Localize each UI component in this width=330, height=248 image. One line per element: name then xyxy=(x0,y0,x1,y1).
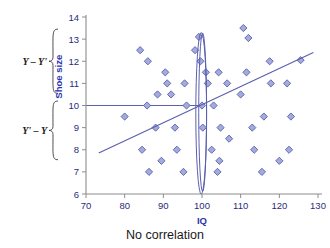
data-point-marker xyxy=(240,24,247,31)
data-point-marker xyxy=(164,80,171,87)
ellipse-outline-inner xyxy=(199,33,207,191)
data-point-marker xyxy=(171,124,178,131)
data-point-marker xyxy=(266,58,273,65)
data-point-marker xyxy=(276,157,283,164)
data-point-marker xyxy=(183,102,190,109)
y-tick-label: 14 xyxy=(68,12,79,23)
brace-label-1: Y' – Y xyxy=(22,125,48,136)
data-point-marker xyxy=(249,124,256,131)
data-point-marker xyxy=(217,124,224,131)
x-axis-title: IQ xyxy=(197,215,207,226)
data-point-marker xyxy=(258,168,265,175)
data-point-marker xyxy=(154,91,161,98)
data-point-marker xyxy=(180,168,187,175)
vertical-ellipse xyxy=(196,32,207,194)
y-tick-label: 6 xyxy=(74,189,79,200)
data-point-marker xyxy=(243,69,250,76)
data-point-marker xyxy=(210,102,217,109)
data-point-marker xyxy=(245,34,252,41)
data-point-marker xyxy=(260,113,267,120)
y-tick-label: 11 xyxy=(69,78,79,89)
data-point-marker xyxy=(143,102,150,109)
data-point-marker xyxy=(167,91,174,98)
x-tick-label: 100 xyxy=(194,200,210,211)
data-point-marker xyxy=(224,80,231,87)
data-point-marker xyxy=(204,80,211,87)
data-point-marker xyxy=(197,58,204,65)
data-point-marker xyxy=(215,69,222,76)
data-point-marker xyxy=(251,146,258,153)
data-point-marker xyxy=(158,157,165,164)
tick-labels: 67891011121314708090100110120130 xyxy=(68,12,326,212)
data-point-marker xyxy=(137,47,144,54)
data-point-marker xyxy=(216,157,223,164)
data-point-marker xyxy=(181,80,188,87)
data-point-marker xyxy=(225,135,232,142)
x-tick-label: 90 xyxy=(158,200,169,211)
y-tick-label: 10 xyxy=(68,100,79,111)
data-point-marker xyxy=(138,146,145,153)
brace-label-0: Y – Y' xyxy=(23,56,48,67)
data-point-marker xyxy=(214,168,221,175)
x-tick-label: 130 xyxy=(310,200,326,211)
data-point-marker xyxy=(199,124,206,131)
data-point-marker xyxy=(121,113,128,120)
figure-container: Y – Y'Y' – Y 678910111213147080901001101… xyxy=(0,0,330,248)
y-tick-label: 8 xyxy=(74,144,79,155)
y-tick-label: 12 xyxy=(68,56,79,67)
x-tick-label: 110 xyxy=(233,200,248,211)
data-point-marker xyxy=(287,113,294,120)
data-point-marker xyxy=(144,58,151,65)
y-axis-title: Shoe size xyxy=(53,55,64,99)
data-point-marker xyxy=(162,69,169,76)
y-tick-label: 13 xyxy=(68,34,79,45)
x-tick-label: 80 xyxy=(119,200,130,211)
y-tick-label: 7 xyxy=(74,166,79,177)
scatter-plot: Y – Y'Y' – Y 678910111213147080901001101… xyxy=(0,0,330,248)
x-tick-label: 70 xyxy=(81,200,92,211)
data-point-marker xyxy=(173,146,180,153)
data-point-marker xyxy=(267,80,274,87)
x-tick-label: 120 xyxy=(271,200,287,211)
brace-shape xyxy=(49,101,58,160)
y-tick-label: 9 xyxy=(74,122,79,133)
data-point-marker xyxy=(285,146,292,153)
data-point-marker xyxy=(145,168,152,175)
data-point-marker xyxy=(208,146,215,153)
data-point-marker xyxy=(283,80,290,87)
data-point-marker xyxy=(237,91,244,98)
figure-caption: No correlation xyxy=(0,228,330,242)
